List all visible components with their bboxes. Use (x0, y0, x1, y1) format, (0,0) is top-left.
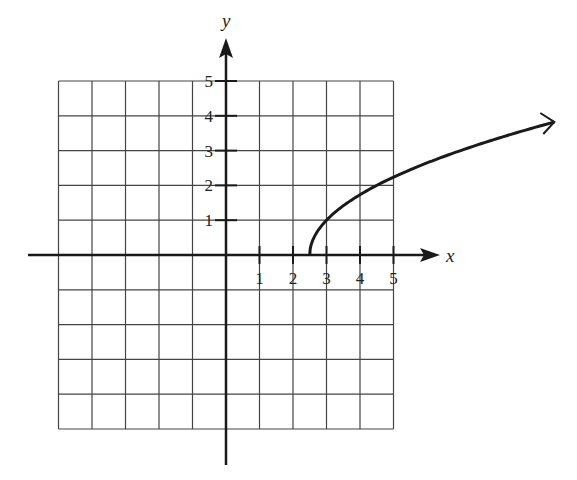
x-tick-label: 2 (289, 269, 298, 288)
x-tick-label: 3 (322, 269, 331, 288)
function-curve (310, 122, 555, 255)
y-tick-label: 2 (205, 176, 214, 195)
y-tick-label: 4 (205, 107, 214, 126)
axes (28, 38, 440, 465)
x-tick-label: 4 (356, 269, 365, 288)
x-tick-label: 5 (389, 269, 398, 288)
y-axis-label: y (220, 10, 231, 31)
x-axis-label: x (445, 245, 455, 266)
coordinate-plane: 1234512345 x y (0, 0, 577, 480)
y-tick-label: 1 (205, 211, 214, 230)
y-tick-label: 5 (205, 72, 214, 91)
tick-marks (215, 81, 394, 264)
y-tick-label: 3 (205, 142, 214, 161)
x-tick-label: 1 (255, 269, 264, 288)
